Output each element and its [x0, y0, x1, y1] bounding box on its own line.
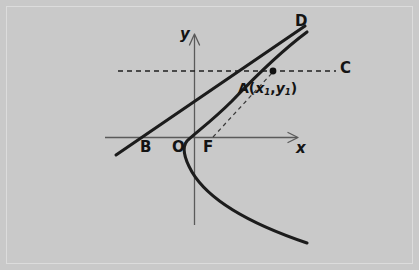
line-d-label: D — [295, 14, 307, 29]
point-a-label: A(x1,y1) — [238, 81, 297, 95]
point-a-marker — [270, 68, 277, 75]
point-a-x-var: x — [255, 80, 264, 96]
point-a-y-var: y — [276, 80, 285, 96]
point-a-name: A — [238, 80, 249, 96]
line-c-label: C — [340, 61, 351, 76]
origin-label: O — [172, 140, 185, 155]
point-b-label: B — [140, 140, 151, 155]
point-a-x-subscript: 1 — [264, 87, 270, 97]
y-axis-label: y — [180, 27, 190, 42]
geometry-diagram — [0, 0, 419, 270]
point-f-label: F — [203, 140, 213, 155]
x-axis-label: x — [296, 141, 306, 156]
point-a-y-subscript: 1 — [285, 87, 291, 97]
point-a-close-paren: ) — [291, 80, 297, 96]
figure-canvas: y x B O F D C A(x1,y1) — [0, 0, 419, 270]
